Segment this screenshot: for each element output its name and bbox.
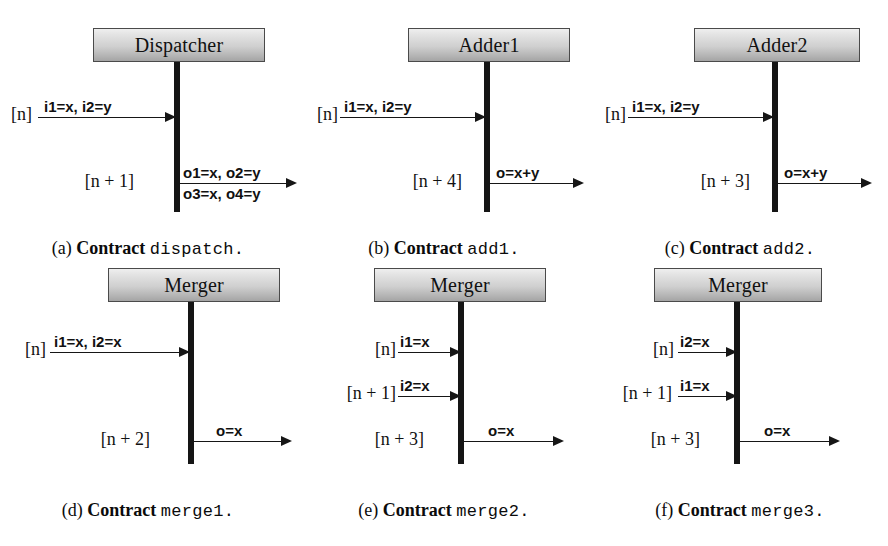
arrowhead-icon — [726, 347, 737, 357]
sequence-diagram-b: Adder1 [n] i1=x, i2=y [n + 4] o=x+y — [296, 0, 592, 240]
time-tag: [n] — [0, 105, 32, 123]
caption-word: Contract — [383, 500, 452, 520]
time-tag: [n] — [14, 340, 46, 358]
caption-a: (a) Contract dispatch. — [0, 238, 296, 260]
actor-box-adder2: Adder2 — [694, 28, 860, 62]
actor-label: Adder2 — [746, 35, 807, 55]
message-line — [740, 441, 838, 442]
message-label-above: o1=x, o2=y — [183, 165, 261, 180]
arrowhead-icon — [475, 112, 486, 122]
lifeline — [174, 62, 180, 212]
caption-b: (b) Contract add1. — [296, 238, 592, 260]
actor-box-dispatcher: Dispatcher — [93, 28, 265, 62]
time-tag: [n] — [306, 105, 338, 123]
subfigure-d: Merger [n] i1=x, i2=x [n + 2] o=x (d) Co… — [0, 262, 296, 535]
actor-label: Merger — [430, 275, 490, 295]
arrowhead-icon — [450, 347, 461, 357]
message-label-above: i1=x, i2=y — [632, 99, 700, 114]
time-tag: [n + 2] — [72, 430, 150, 448]
actor-label: Merger — [708, 275, 768, 295]
message-label-above: o=x — [764, 423, 790, 438]
lifeline — [734, 302, 740, 464]
caption-contract-name: merge2. — [456, 502, 530, 521]
lifeline — [188, 302, 194, 464]
caption-index: (d) — [62, 500, 83, 520]
figure-grid: Dispatcher [n] i1=x, i2=y [n + 1] o1=x, … — [0, 0, 888, 546]
time-tag: [n + 1] — [56, 172, 134, 190]
arrowhead-icon — [281, 436, 292, 446]
time-tag: [n] — [594, 105, 626, 123]
caption-index: (e) — [358, 500, 378, 520]
subfigure-b: Adder1 [n] i1=x, i2=y [n + 4] o=x+y (b) … — [296, 0, 592, 273]
message-label-above: o=x — [488, 423, 514, 438]
actor-box-merger: Merger — [374, 268, 546, 302]
subfigure-c: Adder2 [n] i1=x, i2=y [n + 3] o=x+y (c) … — [592, 0, 888, 273]
arrowhead-icon — [450, 391, 461, 401]
arrowhead-icon — [829, 436, 840, 446]
time-tag: [n + 1] — [604, 384, 672, 402]
arrowhead-icon — [726, 391, 737, 401]
sequence-diagram-d: Merger [n] i1=x, i2=x [n + 2] o=x — [0, 262, 296, 502]
caption-index: (c) — [665, 238, 685, 258]
arrowhead-icon — [165, 112, 176, 122]
message-label-above: o=x+y — [496, 165, 539, 180]
message-label-above: i1=x, i2=y — [344, 99, 412, 114]
actor-box-merger: Merger — [108, 268, 280, 302]
arrowhead-icon — [861, 178, 872, 188]
message-label-above: o=x+y — [784, 165, 827, 180]
time-tag: [n + 4] — [384, 172, 462, 190]
lifeline — [484, 62, 490, 212]
caption-word: Contract — [689, 238, 758, 258]
actor-box-adder1: Adder1 — [408, 28, 570, 62]
caption-index: (b) — [368, 238, 389, 258]
caption-index: (f) — [655, 500, 673, 520]
subfigure-f: Merger [n] i2=x [n + 1] i1=x [n + 3] o=x — [592, 262, 888, 535]
arrowhead-icon — [179, 347, 190, 357]
caption-word: Contract — [678, 500, 747, 520]
lifeline — [458, 302, 464, 464]
caption-d: (d) Contract merge1. — [0, 500, 296, 522]
caption-f: (f) Contract merge3. — [592, 500, 888, 522]
caption-e: (e) Contract merge2. — [296, 500, 592, 522]
actor-label: Adder1 — [458, 35, 519, 55]
time-tag: [n] — [642, 340, 674, 358]
caption-contract-name: add1. — [467, 240, 520, 259]
caption-contract-name: merge3. — [751, 502, 825, 521]
arrowhead-icon — [553, 436, 564, 446]
message-line — [340, 117, 486, 118]
time-tag: [n + 3] — [672, 172, 750, 190]
message-label-below: o3=x, o4=y — [183, 186, 261, 201]
message-line — [50, 352, 190, 353]
caption-word: Contract — [394, 238, 463, 258]
message-line — [194, 441, 290, 442]
sequence-diagram-a: Dispatcher [n] i1=x, i2=y [n + 1] o1=x, … — [0, 0, 296, 240]
sequence-diagram-e: Merger [n] i1=x [n + 1] i2=x [n + 3] o=x — [296, 262, 592, 502]
arrowhead-icon — [573, 178, 584, 188]
time-tag: [n + 3] — [346, 430, 424, 448]
arrowhead-icon — [763, 112, 774, 122]
message-line — [490, 183, 582, 184]
lifeline — [772, 62, 778, 212]
time-tag: [n + 3] — [622, 430, 700, 448]
subfigure-a: Dispatcher [n] i1=x, i2=y [n + 1] o1=x, … — [0, 0, 296, 273]
subfigure-e: Merger [n] i1=x [n + 1] i2=x [n + 3] o=x — [296, 262, 592, 535]
message-label-above: i1=x — [400, 334, 430, 349]
actor-box-merger: Merger — [654, 268, 822, 302]
actor-label: Merger — [164, 275, 224, 295]
caption-contract-name: merge1. — [161, 502, 235, 521]
message-line — [778, 183, 870, 184]
message-label-above: i2=x — [680, 334, 710, 349]
message-line — [464, 441, 562, 442]
caption-word: Contract — [76, 238, 145, 258]
message-label-above: o=x — [216, 423, 242, 438]
message-label-above: i1=x, i2=y — [44, 99, 112, 114]
sequence-diagram-f: Merger [n] i2=x [n + 1] i1=x [n + 3] o=x — [592, 262, 888, 502]
message-label-above: i1=x — [680, 378, 710, 393]
message-line — [628, 117, 774, 118]
actor-label: Dispatcher — [135, 35, 224, 55]
caption-contract-name: dispatch. — [150, 240, 245, 259]
time-tag: [n] — [364, 340, 396, 358]
caption-c: (c) Contract add2. — [592, 238, 888, 260]
sequence-diagram-c: Adder2 [n] i1=x, i2=y [n + 3] o=x+y — [592, 0, 888, 240]
time-tag: [n + 1] — [328, 384, 396, 402]
